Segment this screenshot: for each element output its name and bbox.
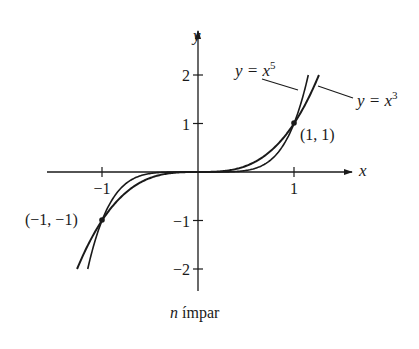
- series-label-x3-exponent: 3: [392, 89, 398, 101]
- y-tick-label: 1: [182, 116, 190, 133]
- caption-variable: n: [170, 304, 178, 321]
- y-tick-label: −2: [173, 261, 190, 278]
- series-label-x5: y = x5: [233, 59, 276, 80]
- leader-line-x3: [318, 86, 353, 98]
- odd-power-functions-figure: x y −1121−1−2 y = x5 y = x3 (1, 1) (−1, …: [0, 0, 419, 349]
- point-1-1: [291, 120, 297, 126]
- y-tick-label: 2: [182, 67, 190, 84]
- leader-line-x5: [262, 79, 298, 90]
- x-axis-label: x: [358, 161, 367, 180]
- series-label-x3: y = x3: [355, 89, 398, 110]
- figure-caption: n ímpar: [170, 304, 220, 322]
- series-label-x5-exponent: 5: [270, 59, 276, 71]
- series-label-x5-prefix: y = x: [233, 61, 271, 80]
- y-tick-label: −1: [173, 213, 190, 230]
- point-neg1-neg1: [99, 217, 105, 223]
- y-axis-label: y: [191, 26, 201, 45]
- annotation-neg1-neg1: (−1, −1): [25, 211, 78, 229]
- x-tick-label: 1: [290, 180, 298, 197]
- caption-text: ímpar: [178, 304, 220, 322]
- series-label-x3-prefix: y = x: [355, 91, 393, 110]
- plot-area: x y −1121−1−2 y = x5 y = x3 (1, 1) (−1, …: [0, 0, 419, 349]
- x-tick-label: −1: [93, 180, 110, 197]
- annotation-1-1: (1, 1): [300, 126, 335, 144]
